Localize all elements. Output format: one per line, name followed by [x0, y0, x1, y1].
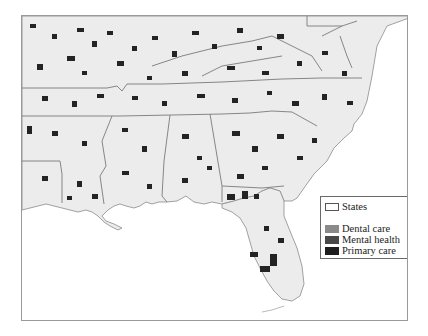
legend-label-dental-care: Dental care	[342, 223, 390, 234]
legend-item-primary-care: Primary care	[325, 245, 407, 256]
legend-item-states: States	[325, 201, 407, 212]
legend-label-primary-care: Primary care	[342, 245, 396, 256]
mental-health-swatch	[325, 236, 339, 244]
legend-item-dental-care: Dental care	[325, 223, 407, 234]
florida-keys	[262, 306, 284, 312]
states-outline-swatch	[325, 203, 339, 211]
southeast-us-map	[22, 16, 408, 321]
legend-label-mental-health: Mental health	[342, 234, 400, 245]
map-frame: States Dental care Mental health Primary…	[21, 15, 408, 321]
map-legend: States Dental care Mental health Primary…	[320, 196, 408, 259]
dental-care-swatch	[325, 225, 339, 233]
primary-care-swatch	[325, 247, 339, 255]
legend-item-mental-health: Mental health	[325, 234, 407, 245]
florida-peninsula	[222, 188, 304, 301]
legend-label-states: States	[342, 201, 367, 212]
